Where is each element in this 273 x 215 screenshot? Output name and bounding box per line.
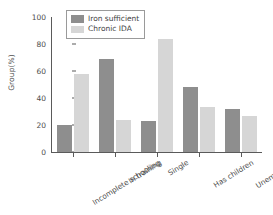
x-axis-tick-mark [241,153,242,157]
x-axis-category-labels: Incomplete schoolingIn trainingSingleHas… [0,152,273,215]
y-axis-label: Group(%) [7,43,16,103]
legend-swatch-icon [71,26,84,34]
legend-swatch-icon [71,15,84,23]
y-axis-tick-labels: 020406080100 [24,12,46,157]
y-axis-tick-label: 60 [24,67,46,76]
bar [141,121,156,152]
bar-group [178,17,220,152]
legend-label: Iron sufficient [88,14,139,25]
x-axis-tick-mark [115,153,116,157]
bar [200,107,215,152]
bar [99,59,114,152]
x-axis-category-label: Single [166,158,190,178]
legend: Iron sufficient Chronic IDA [66,10,145,39]
y-axis-tick-label: 80 [24,40,46,49]
bar [57,125,72,152]
x-axis-tick-mark [199,153,200,157]
legend-item-chronic-ida: Chronic IDA [71,24,139,35]
bar [116,120,131,152]
x-axis-category-label: Has children [212,158,255,190]
legend-label: Chronic IDA [88,24,132,35]
y-axis-tick-label: 40 [24,94,46,103]
bar-chart: Group(%) 020406080100 Incomplete schooli… [0,0,273,215]
x-axis-category-label: Unemployed [254,158,273,190]
bar [74,74,89,152]
bar [225,109,240,152]
x-axis-tick-mark [157,153,158,157]
legend-item-iron-sufficient: Iron sufficient [71,14,139,25]
y-axis-tick-label: 100 [24,13,46,22]
bar [242,116,257,152]
bar-group [220,17,262,152]
y-axis-tick-label: 20 [24,121,46,130]
bar [183,87,198,152]
x-axis-category-label: In training [127,158,163,185]
bar [158,39,173,152]
x-axis-tick-mark [73,153,74,157]
